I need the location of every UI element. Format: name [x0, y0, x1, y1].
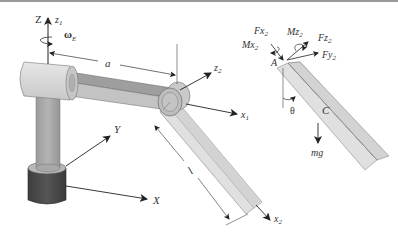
theta-arc [283, 97, 295, 100]
label-C: C [322, 104, 330, 116]
label-X: X [152, 194, 161, 206]
label-l: l [185, 165, 195, 176]
label-Fz2: Fz2 [317, 32, 332, 45]
vertical-column [36, 96, 60, 172]
z-axis [40, 18, 52, 64]
label-theta: θ [290, 105, 295, 116]
z2-axis-arrow [180, 73, 211, 90]
label-z2: z2 [213, 62, 222, 75]
robot-arm-diagram: Z z1 ωE a z2 x1 l x2 Y X θ C mg [0, 0, 398, 239]
label-Mx2: Mx2 [241, 39, 259, 52]
label-x1: x1 [240, 109, 249, 122]
label-a: a [105, 57, 111, 69]
X-axis-arrow [66, 186, 147, 199]
label-Fx2: Fx2 [253, 25, 269, 38]
Y-axis-arrow [66, 136, 110, 166]
label-Y: Y [114, 123, 122, 135]
label-omega: ωE [64, 28, 77, 43]
label-mg: mg [311, 147, 323, 158]
x2-axis-arrow [256, 205, 270, 220]
horizontal-arm [70, 72, 172, 110]
label-Mz2: Mz2 [286, 26, 303, 39]
forces-at-A [271, 42, 318, 60]
x1-axis-arrow [186, 104, 237, 114]
free-body-rod [277, 62, 389, 170]
label-Z: Z [35, 13, 42, 25]
label-Fy2: Fy2 [321, 49, 337, 62]
label-x2: x2 [273, 213, 282, 226]
label-z1: z1 [54, 14, 62, 27]
shoulder-cylinder [20, 62, 78, 100]
label-A: A [270, 57, 278, 68]
